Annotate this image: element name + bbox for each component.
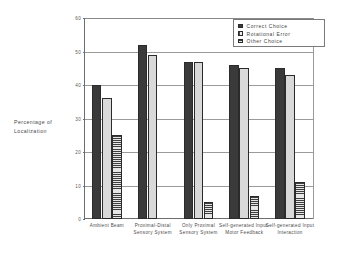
bar (102, 98, 112, 219)
y-axis-tick-label: 0 (65, 217, 81, 222)
x-axis-category-label: Self-generated Input Interaction (264, 222, 316, 237)
x-axis-category-label: Only Proximal Sensory System (173, 222, 225, 237)
y-axis-tick-label: 40 (65, 83, 81, 88)
legend-label-other-choice: Other Choice (247, 38, 283, 44)
bar-group (229, 18, 259, 219)
bar (295, 182, 305, 219)
legend-label-correct-choice: Correct Choice (247, 23, 288, 29)
x-axis-category-label: Ambient Beam (81, 222, 133, 229)
bar-group (138, 18, 168, 219)
bar (194, 62, 204, 219)
legend-item-rotational-error: Rotational Error (238, 30, 324, 38)
bar-group (92, 18, 122, 219)
y-axis-tick-label: 10 (65, 183, 81, 188)
x-axis-category-label: Proximal-Distal Sensory System (127, 222, 179, 237)
bar (204, 202, 214, 219)
y-axis-tick-mark (83, 219, 86, 220)
x-axis-category-label: Self-generated Input-Motor Feedback (218, 222, 270, 237)
bar (239, 68, 249, 219)
legend-swatch-icon-correct-choice (238, 24, 243, 28)
bar-group (184, 18, 214, 219)
bar (112, 135, 122, 219)
bars-layer (84, 18, 313, 219)
bar (285, 75, 295, 219)
y-axis-tick-label: 50 (65, 49, 81, 54)
legend-label-rotational-error: Rotational Error (247, 31, 291, 37)
legend-swatch-icon-rotational-error (238, 31, 243, 35)
bar (229, 65, 239, 219)
legend-item-other-choice: Other Choice (238, 37, 324, 45)
y-axis-tick-label: 20 (65, 150, 81, 155)
y-axis-tick-label: 30 (65, 116, 81, 121)
legend-item-correct-choice: Correct Choice (238, 22, 324, 30)
bar (138, 45, 148, 219)
bar (92, 85, 102, 219)
legend-swatch-icon-other-choice (238, 39, 243, 43)
chart-legend: Correct Choice Rotational Error Other Ch… (233, 19, 325, 47)
bar (250, 196, 260, 219)
y-axis-tick-label: 60 (65, 16, 81, 21)
y-axis-title-line-2: Localization (14, 127, 76, 136)
bar (148, 55, 158, 219)
bar-chart: Percentage of Localization 0102030405060… (0, 0, 340, 256)
bar-group (275, 18, 305, 219)
bar (275, 68, 285, 219)
bar (184, 62, 194, 219)
x-axis-category-labels: Ambient BeamProximal-Distal Sensory Syst… (84, 222, 313, 254)
